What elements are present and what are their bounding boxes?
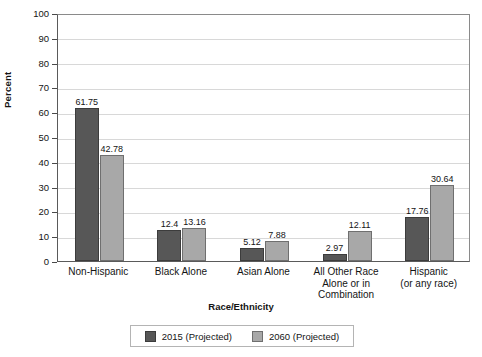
- x-axis-category-label: Hispanic(or any race): [373, 266, 482, 289]
- bar-2060: 30.64: [430, 185, 454, 261]
- y-axis-tick-label: 70: [9, 83, 49, 93]
- bar-value-label: 7.88: [268, 230, 286, 241]
- legend-swatch-2060: [252, 331, 263, 342]
- bar-2060: 7.88: [265, 241, 289, 261]
- y-axis-tick-mark: [52, 237, 57, 238]
- bar-2015: 5.12: [240, 248, 264, 261]
- y-axis-tick-label: 90: [9, 34, 49, 44]
- bar-value-label: 61.75: [76, 97, 99, 108]
- y-axis-tick-mark: [52, 262, 57, 263]
- bar-group: 61.7542.78: [58, 15, 141, 261]
- x-axis-label-line: (or any race): [373, 278, 482, 290]
- legend-swatch-2015: [145, 331, 156, 342]
- bar-value-label: 17.76: [406, 206, 429, 217]
- x-axis-label-line: Hispanic: [373, 266, 482, 278]
- y-axis-tick-label: 50: [9, 133, 49, 143]
- bar-group: 2.9712.11: [306, 15, 389, 261]
- bar-2015: 2.97: [323, 254, 347, 261]
- x-axis-title: Race/Ethnicity: [0, 301, 482, 312]
- bar-value-label: 2.97: [326, 243, 344, 254]
- y-axis-tick-label: 40: [9, 158, 49, 168]
- bar-2060: 13.16: [182, 228, 206, 261]
- y-axis-tick-label: 100: [9, 9, 49, 19]
- bar-value-label: 12.11: [349, 220, 371, 231]
- legend-item-2060: 2060 (Projected): [252, 331, 339, 342]
- bar-2060: 12.11: [348, 231, 372, 261]
- y-axis-tick-label: 80: [9, 59, 49, 69]
- bar-2015: 12.4: [157, 230, 181, 261]
- y-axis-title: Percent: [2, 94, 13, 108]
- y-axis-tick-mark: [52, 64, 57, 65]
- y-axis-tick-mark: [52, 188, 57, 189]
- legend-label-2060: 2060 (Projected): [269, 331, 339, 342]
- plot-area: 61.7542.7812.413.165.127.882.9712.1117.7…: [57, 14, 470, 262]
- chart-legend: 2015 (Projected) 2060 (Projected): [130, 325, 354, 347]
- bar-2015: 17.76: [405, 217, 429, 261]
- bar-value-label: 42.78: [101, 144, 124, 155]
- y-axis-tick-mark: [52, 163, 57, 164]
- bar-value-label: 30.64: [431, 174, 454, 185]
- bar-2060: 42.78: [100, 155, 124, 261]
- y-axis-tick-label: 60: [9, 108, 49, 118]
- bar-group: 12.413.16: [141, 15, 224, 261]
- y-axis-tick-mark: [52, 39, 57, 40]
- y-axis-tick-label: 10: [9, 232, 49, 242]
- legend-item-2015: 2015 (Projected): [145, 331, 232, 342]
- x-axis-label-line: Combination: [291, 289, 402, 301]
- y-axis-tick-label: 20: [9, 207, 49, 217]
- bar-group: 5.127.88: [223, 15, 306, 261]
- bar-2015: 61.75: [75, 108, 99, 261]
- y-axis-tick-mark: [52, 113, 57, 114]
- legend-label-2015: 2015 (Projected): [162, 331, 232, 342]
- bar-chart: Percent 61.7542.7812.413.165.127.882.971…: [0, 0, 482, 357]
- bar-value-label: 5.12: [243, 237, 261, 248]
- y-axis-tick-mark: [52, 14, 57, 15]
- bar-value-label: 12.4: [161, 219, 179, 230]
- bar-group: 17.7630.64: [388, 15, 471, 261]
- y-axis-tick-mark: [52, 88, 57, 89]
- y-axis-tick-label: 30: [9, 183, 49, 193]
- bar-value-label: 13.16: [183, 217, 206, 228]
- y-axis-tick-mark: [52, 212, 57, 213]
- y-axis-tick-mark: [52, 138, 57, 139]
